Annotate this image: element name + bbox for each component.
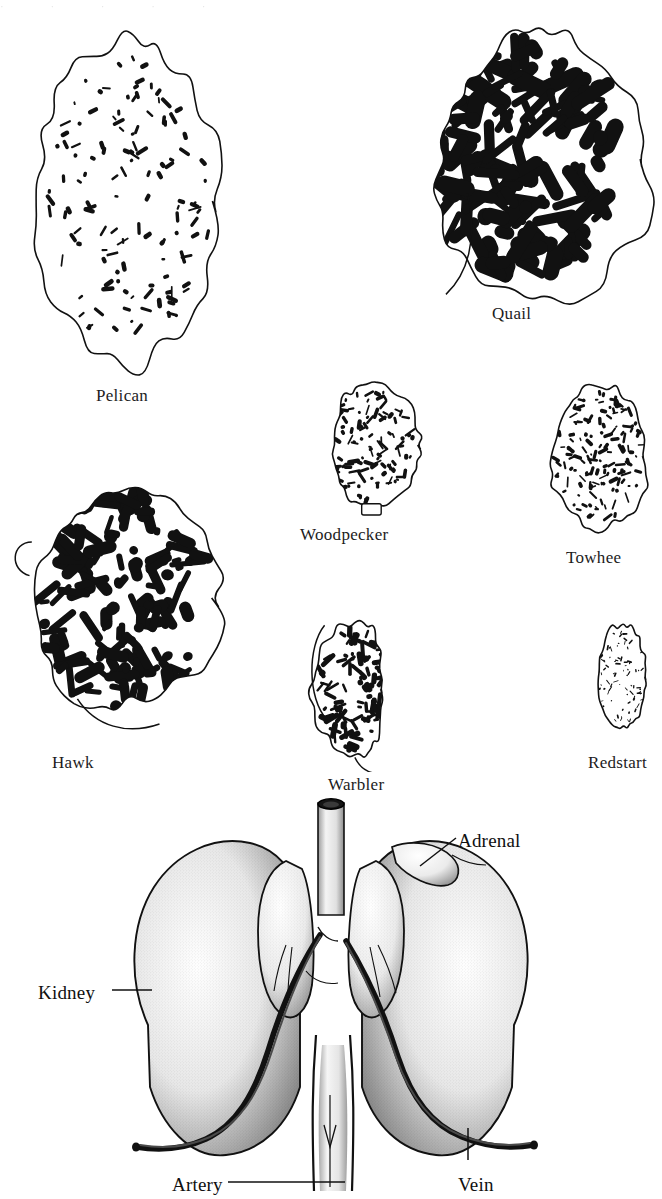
kidney-section-quail bbox=[384, 12, 658, 310]
kidney-section-warbler bbox=[300, 610, 414, 772]
page-scan-artifact: · · · · · bbox=[0, 0, 662, 12]
kidney-anatomy-diagram bbox=[0, 795, 662, 1199]
kidney-section-woodpecker bbox=[305, 372, 433, 522]
anatomy-label-vein: Vein bbox=[458, 1174, 494, 1196]
caption-quail: Quail bbox=[492, 304, 531, 324]
caption-woodpecker: Woodpecker bbox=[300, 525, 388, 545]
caption-towhee: Towhee bbox=[566, 548, 621, 568]
figure-root: · · · · · PelicanQuailHawkWoodpeckerTowh… bbox=[0, 0, 662, 1199]
caption-redstart: Redstart bbox=[588, 753, 647, 773]
kidney-section-hawk bbox=[6, 455, 240, 745]
cut-vessel-stump bbox=[318, 799, 344, 915]
caption-pelican: Pelican bbox=[96, 386, 148, 406]
caption-warbler: Warbler bbox=[328, 775, 384, 795]
caption-hawk: Hawk bbox=[52, 753, 94, 773]
anatomy-label-kidney: Kidney bbox=[38, 982, 95, 1004]
anatomy-label-adrenal: Adrenal bbox=[458, 830, 521, 852]
kidney-section-towhee bbox=[536, 372, 662, 544]
kidney-section-redstart bbox=[586, 615, 658, 743]
kidney-section-pelican bbox=[14, 18, 242, 388]
anatomy-label-artery: Artery bbox=[172, 1174, 223, 1196]
